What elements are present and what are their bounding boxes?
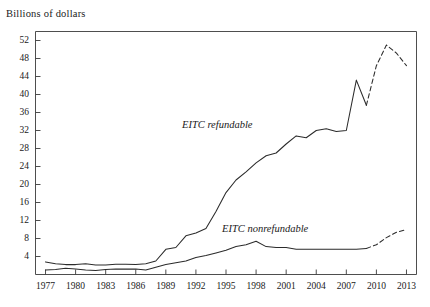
y-axis-tick-label: 28	[3, 144, 29, 154]
y-axis-tick-label: 40	[3, 90, 29, 100]
plot-frame	[36, 32, 417, 275]
y-axis-tick-label: 24	[3, 162, 29, 172]
series-label-nonrefundable: EITC nonrefundable	[222, 223, 308, 234]
y-axis-tick-label: 36	[3, 108, 29, 118]
data-series-group	[46, 45, 407, 270]
axis-ticks	[36, 41, 407, 275]
y-axis-tick-label: 52	[3, 36, 29, 46]
y-axis-tick-label: 32	[3, 126, 29, 136]
y-axis-tick-label: 8	[3, 234, 29, 244]
y-axis-tick-label: 12	[3, 216, 29, 226]
eitc-chart: Billions of dollars 48121620242832364044…	[0, 0, 430, 307]
y-axis-tick-label: 4	[3, 252, 29, 262]
series-label-refundable: EITC refundable	[182, 119, 252, 130]
chart-plot-area	[0, 0, 430, 307]
y-axis-tick-label: 44	[3, 72, 29, 82]
y-axis-tick-label: 16	[3, 198, 29, 208]
x-axis-tick-label: 2013	[386, 282, 426, 292]
y-axis-tick-label: 48	[3, 54, 29, 64]
y-axis-tick-label: 20	[3, 180, 29, 190]
